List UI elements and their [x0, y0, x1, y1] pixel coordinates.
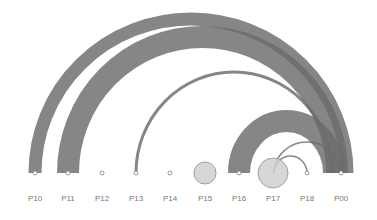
node-label-p16: P16: [232, 194, 247, 203]
node-label-p18: P18: [300, 194, 315, 203]
link-p16-p00: [239, 121, 334, 173]
node-p14: [168, 171, 172, 175]
node-label-p12: P12: [95, 194, 110, 203]
node-p13: [134, 171, 138, 175]
node-p00: [339, 171, 343, 175]
links-layer: [35, 19, 347, 173]
node-p12: [100, 171, 104, 175]
node-label-p10: P10: [28, 194, 43, 203]
node-p11: [66, 171, 70, 175]
node-p10: [33, 171, 37, 175]
node-p16: [237, 171, 241, 175]
arc-diagram: P10P11P12P13P14P15P16P17P18P00: [0, 0, 377, 220]
node-label-p15: P15: [198, 194, 213, 203]
node-label-p14: P14: [163, 194, 178, 203]
node-p17: [258, 158, 288, 188]
node-label-p11: P11: [61, 194, 75, 203]
nodes-layer: [33, 158, 343, 188]
node-label-p13: P13: [129, 194, 144, 203]
node-p15: [194, 162, 216, 184]
node-p18: [305, 171, 309, 175]
node-label-p17: P17: [266, 194, 281, 203]
node-label-p00: P00: [334, 194, 349, 203]
labels-layer: P10P11P12P13P14P15P16P17P18P00: [28, 194, 349, 203]
